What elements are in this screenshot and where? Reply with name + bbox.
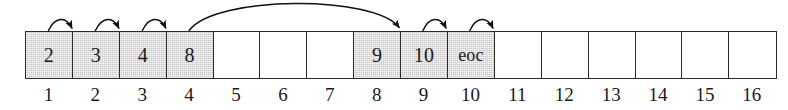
array-index-label: 15 <box>681 82 728 108</box>
array-cell <box>307 32 354 78</box>
array-cell <box>729 32 776 78</box>
array-cell <box>260 32 307 78</box>
array-index-label: 14 <box>635 82 682 108</box>
array-cell <box>589 32 636 78</box>
array-cell <box>636 32 683 78</box>
arrow-2-to-3 <box>95 19 118 30</box>
array-index-label: 7 <box>306 82 353 108</box>
array-cell-value: 10 <box>414 45 434 65</box>
array-cell-value: 4 <box>138 45 148 65</box>
array-index-label: 8 <box>353 82 400 108</box>
array-index-label: 3 <box>119 82 166 108</box>
array-cell-value: eoc <box>458 46 484 64</box>
array-cell-value: 8 <box>185 45 195 65</box>
array-index-label: 11 <box>494 82 541 108</box>
array-cell <box>495 32 542 78</box>
arrow-4-to-8 <box>189 3 399 30</box>
array-index-label: 13 <box>588 82 635 108</box>
array-cell: 3 <box>73 32 120 78</box>
array-index-label: 6 <box>259 82 306 108</box>
arrow-9-to-10 <box>470 19 493 30</box>
array-index-label: 16 <box>728 82 775 108</box>
array-index-label: 1 <box>25 82 72 108</box>
array-cell-value: 2 <box>44 45 54 65</box>
array-index-label: 2 <box>72 82 119 108</box>
array-index-label: 9 <box>400 82 447 108</box>
array-cell: 2 <box>26 32 73 78</box>
arrow-3-to-4 <box>142 19 165 30</box>
array-cell: 10 <box>401 32 448 78</box>
array-cell-value: 3 <box>91 45 101 65</box>
array-cell: 4 <box>120 32 167 78</box>
array-cell: 9 <box>354 32 401 78</box>
array-cell-value: 9 <box>372 45 382 65</box>
array-linked-list-diagram: 2 3 4 8 9 10 eoc 1 2 3 4 5 6 7 8 9 10 11… <box>0 0 788 110</box>
array-cell-row: 2 3 4 8 9 10 eoc <box>25 31 777 79</box>
array-index-label: 4 <box>166 82 213 108</box>
array-index-label: 12 <box>541 82 588 108</box>
array-cell <box>682 32 729 78</box>
array-cell <box>214 32 261 78</box>
arrow-8-to-9 <box>423 19 446 30</box>
array-cell <box>542 32 589 78</box>
array-index-row: 1 2 3 4 5 6 7 8 9 10 11 12 13 14 15 16 <box>25 82 775 108</box>
array-index-label: 10 <box>447 82 494 108</box>
array-cell: eoc <box>448 32 495 78</box>
arrow-1-to-2 <box>49 19 72 30</box>
array-index-label: 5 <box>213 82 260 108</box>
array-cell: 8 <box>167 32 214 78</box>
